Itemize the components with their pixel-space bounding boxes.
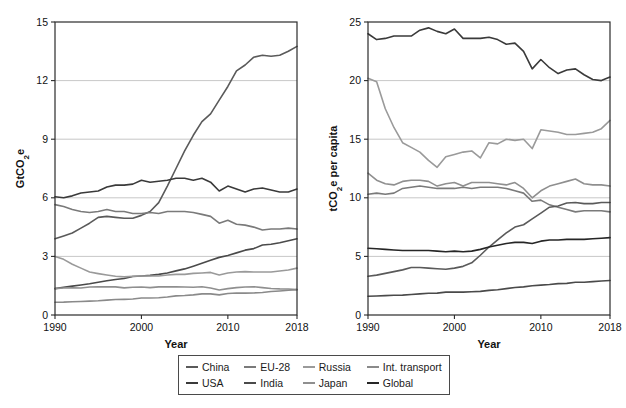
legend-label: EU-28 xyxy=(260,362,290,373)
series-line-russia xyxy=(368,78,610,167)
x-tick-label: 2018 xyxy=(285,321,309,333)
x-axis-title: Year xyxy=(164,338,188,350)
series-line-india xyxy=(368,280,610,296)
series-line-eu-28 xyxy=(368,186,610,212)
legend-label: Japan xyxy=(319,378,348,389)
series-line-usa xyxy=(368,28,610,81)
legend-swatch-icon xyxy=(303,366,315,368)
line-chart-tco2e-per-capita: 05101520251990200020102018YeartCO2e per … xyxy=(313,0,626,348)
legend-label: India xyxy=(260,378,283,389)
legend-swatch-icon xyxy=(186,366,198,368)
x-tick-label: 2010 xyxy=(529,321,553,333)
y-tick-label: 3 xyxy=(42,250,48,262)
chart-legend: ChinaEU-28RussiaInt. transport USAIndiaJ… xyxy=(178,355,450,395)
legend-item-india: India xyxy=(244,378,302,389)
legend-swatch-icon xyxy=(244,382,256,384)
series-line-india xyxy=(55,239,297,289)
series-line-usa xyxy=(55,178,297,198)
x-axis-title: Year xyxy=(477,338,501,350)
legend-item-russia: Russia xyxy=(303,362,367,373)
legend-label: Int. transport xyxy=(383,362,442,373)
y-tick-label: 12 xyxy=(36,74,48,86)
y-tick-label: 15 xyxy=(36,16,48,28)
x-tick-label: 2000 xyxy=(443,321,467,333)
legend-item-usa: USA xyxy=(186,378,244,389)
series-line-china xyxy=(55,46,297,238)
legend-swatch-icon xyxy=(367,366,379,368)
x-tick-label: 2010 xyxy=(216,321,240,333)
plot-frame xyxy=(368,22,610,315)
x-tick-label: 1990 xyxy=(356,321,380,333)
chart-panel-left: 036912151990200020102018YearGtCO2e xyxy=(0,0,313,348)
series-line-eu-28 xyxy=(55,205,297,230)
y-tick-label: 9 xyxy=(42,133,48,145)
series-line-int-transport xyxy=(55,290,297,303)
legend-swatch-icon xyxy=(244,366,256,368)
y-tick-label: 15 xyxy=(349,133,361,145)
chart-panel-right: 05101520251990200020102018YeartCO2e per … xyxy=(313,0,626,348)
legend-item-china: China xyxy=(186,362,244,373)
y-tick-label: 0 xyxy=(42,309,48,321)
legend-swatch-icon xyxy=(303,382,315,384)
legend-label: China xyxy=(202,362,229,373)
y-tick-label: 5 xyxy=(355,250,361,262)
y-axis-title: tCO2e per capita xyxy=(327,125,344,212)
legend-item-eu-28: EU-28 xyxy=(244,362,302,373)
y-tick-label: 6 xyxy=(42,191,48,203)
legend-row: USAIndiaJapanGlobal xyxy=(186,375,442,391)
series-line-japan xyxy=(55,287,297,290)
legend-label: Russia xyxy=(319,362,351,373)
legend-swatch-icon xyxy=(186,382,198,384)
series-line-japan xyxy=(368,173,610,198)
legend-label: USA xyxy=(202,378,224,389)
series-line-global xyxy=(368,238,610,252)
series-line-russia xyxy=(55,256,297,277)
y-tick-label: 20 xyxy=(349,74,361,86)
line-chart-gtco2e: 036912151990200020102018YearGtCO2e xyxy=(0,0,313,348)
legend-item-int-transport: Int. transport xyxy=(367,362,442,373)
legend-swatch-icon xyxy=(367,382,379,384)
y-tick-label: 0 xyxy=(355,309,361,321)
legend-item-global: Global xyxy=(367,378,442,389)
x-tick-label: 1990 xyxy=(43,321,67,333)
x-tick-label: 2018 xyxy=(598,321,622,333)
figure-root: 036912151990200020102018YearGtCO2e 05101… xyxy=(0,0,626,408)
legend-item-japan: Japan xyxy=(303,378,367,389)
legend-label: Global xyxy=(383,378,413,389)
y-tick-label: 10 xyxy=(349,191,361,203)
x-tick-label: 2000 xyxy=(130,321,154,333)
legend-row: ChinaEU-28RussiaInt. transport xyxy=(186,359,442,375)
y-axis-title: GtCO2e xyxy=(14,149,31,188)
y-tick-label: 25 xyxy=(349,16,361,28)
